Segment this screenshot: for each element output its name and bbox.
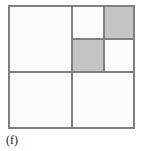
main-vertical-divider: [71, 7, 73, 127]
subcell-bottom-right: [104, 39, 133, 71]
subcell-top-left: [72, 7, 105, 39]
subcell-top-right-shaded: [104, 7, 133, 39]
figure-container: (f): [0, 0, 143, 151]
subcell-bottom-left-shaded: [72, 39, 105, 71]
outer-square: [8, 5, 135, 129]
quadrant-bottom-left: [10, 72, 72, 127]
quadrant-top-right: [72, 7, 134, 72]
quadrant-top-left: [10, 7, 72, 72]
quadrant-bottom-right: [72, 72, 134, 127]
quadrant-grid: [10, 7, 133, 127]
figure-caption: (f): [6, 133, 18, 147]
sub-vertical-divider: [103, 7, 105, 72]
